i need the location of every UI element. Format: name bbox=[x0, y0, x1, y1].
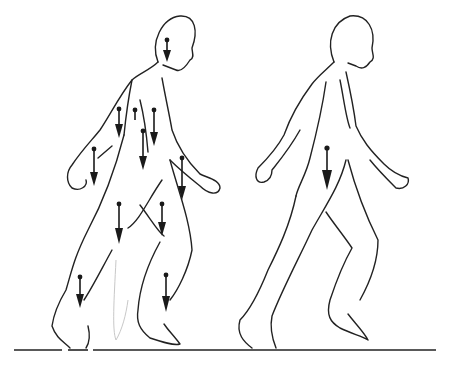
head-arrow-icon bbox=[163, 38, 171, 62]
front-shank-arrow-icon bbox=[162, 273, 170, 312]
walking-figures-diagram bbox=[0, 0, 452, 374]
forearm-arrow-icon bbox=[90, 147, 98, 186]
rear-thigh-arrow-icon bbox=[115, 202, 123, 244]
upper-arm-arrow-icon bbox=[115, 107, 123, 138]
foot-arrow-icon bbox=[133, 108, 138, 120]
segment-mass-arrows bbox=[76, 38, 186, 312]
right-walking-figure bbox=[239, 16, 408, 348]
torso-arrow-icon bbox=[150, 108, 158, 146]
rear-shank-arrow-icon bbox=[76, 275, 84, 308]
diagram-canvas bbox=[0, 0, 452, 374]
center-of-mass-arrow-icon bbox=[322, 145, 332, 190]
